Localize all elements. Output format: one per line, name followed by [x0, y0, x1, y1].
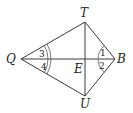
angle-label-1: 1 — [100, 48, 106, 58]
segment-QT — [21, 22, 85, 59]
kite-diagram: T Q B U E 3 4 1 2 — [0, 0, 133, 113]
vertex-label-T: T — [80, 6, 89, 20]
angle-label-3: 3 — [39, 49, 45, 59]
vertex-label-E: E — [73, 62, 83, 76]
angle-label-2: 2 — [99, 61, 105, 71]
vertex-label-B: B — [116, 52, 126, 66]
angle-label-4: 4 — [41, 62, 47, 72]
vertex-label-Q: Q — [6, 52, 16, 66]
vertex-label-U: U — [80, 97, 91, 111]
